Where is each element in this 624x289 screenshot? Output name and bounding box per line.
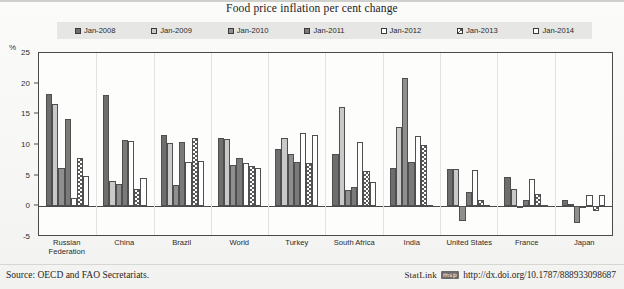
legend-swatch-icon: [75, 28, 81, 34]
bar-slot: [83, 53, 89, 235]
y-tick-label: 5: [10, 170, 30, 179]
legend-label: Jan-2014: [542, 26, 574, 35]
x-axis-label: United States: [441, 238, 499, 264]
bar[interactable]: [541, 205, 547, 207]
plot-area: [38, 52, 613, 236]
legend-item-jan-2014[interactable]: Jan-2014: [516, 26, 592, 35]
legend-item-jan-2008[interactable]: Jan-2008: [57, 26, 133, 35]
bar-groups: [39, 53, 612, 235]
y-tick-label: 0: [10, 201, 30, 210]
bar[interactable]: [83, 176, 89, 207]
bar-group: [154, 53, 211, 235]
bar[interactable]: [599, 195, 605, 206]
x-axis-label: Russian Federation: [38, 238, 96, 264]
bar-group: [96, 53, 153, 235]
bar-group: [325, 53, 382, 235]
x-axis-labels: Russian FederationChinaBrazilWorldTurkey…: [38, 238, 613, 264]
x-axis-label: France: [498, 238, 556, 264]
bar-group: [497, 53, 554, 235]
statlink[interactable]: StatLink msp http://dx.doi.org/10.1787/8…: [404, 270, 616, 280]
x-axis-label: Brazil: [153, 238, 211, 264]
y-tick-label: 15: [10, 109, 30, 118]
legend-swatch-icon: [151, 28, 157, 34]
bar-slot: [312, 53, 318, 235]
bar-group: [268, 53, 325, 235]
bar-slot: [427, 53, 433, 235]
y-tick-label: 25: [10, 48, 30, 57]
chart-title: Food price inflation per cent change: [0, 2, 624, 14]
bar[interactable]: [312, 135, 318, 206]
y-tick-label: 10: [10, 140, 30, 149]
bar-group: [39, 53, 96, 235]
bar[interactable]: [427, 205, 433, 207]
bar-group: [383, 53, 440, 235]
source-note: Source: OECD and FAO Secretariats.: [6, 270, 149, 280]
legend-label: Jan-2011: [313, 26, 344, 35]
x-axis-label: Turkey: [268, 238, 326, 264]
bar[interactable]: [370, 182, 376, 207]
legend-swatch-icon: [304, 28, 310, 34]
bar-slot: [255, 53, 261, 235]
chart-legend: Jan-2008Jan-2009Jan-2010Jan-2011Jan-2012…: [57, 22, 592, 39]
bar-group: [555, 53, 612, 235]
bar-slot: [198, 53, 204, 235]
bar-slot: [541, 53, 547, 235]
bar[interactable]: [198, 161, 204, 206]
bar[interactable]: [484, 205, 490, 207]
legend-label: Jan-2008: [84, 26, 116, 35]
legend-label: Jan-2010: [237, 26, 269, 35]
legend-swatch-icon: [381, 28, 387, 34]
bar-slot: [140, 53, 146, 235]
y-axis: 2520151050-5: [10, 52, 34, 236]
bar-slot: [484, 53, 490, 235]
bar-group: [440, 53, 497, 235]
statlink-url[interactable]: http://dx.doi.org/10.1787/888933098687: [463, 270, 616, 280]
legend-swatch-icon: [228, 28, 234, 34]
legend-label: Jan-2013: [466, 26, 498, 35]
x-axis-label: Japan: [556, 238, 614, 264]
legend-item-jan-2011[interactable]: Jan-2011: [286, 26, 362, 35]
bar-group: [211, 53, 268, 235]
x-axis-label: World: [211, 238, 269, 264]
statlink-label: StatLink: [404, 270, 437, 280]
y-tick-label: -5: [10, 232, 30, 241]
bar[interactable]: [140, 178, 146, 206]
y-tick-label: 20: [10, 78, 30, 87]
x-axis-label: India: [383, 238, 441, 264]
x-axis-label: South Africa: [326, 238, 384, 264]
legend-item-jan-2012[interactable]: Jan-2012: [363, 26, 439, 35]
footer-divider: [0, 264, 624, 265]
bar-slot: [599, 53, 605, 235]
x-axis-label: China: [96, 238, 154, 264]
legend-item-jan-2010[interactable]: Jan-2010: [210, 26, 286, 35]
bar-slot: [370, 53, 376, 235]
bar[interactable]: [255, 168, 261, 206]
legend-item-jan-2013[interactable]: Jan-2013: [439, 26, 515, 35]
plot-area-wrapper: 2520151050-5: [10, 52, 614, 236]
legend-label: Jan-2012: [390, 26, 422, 35]
statlink-icon: msp: [441, 271, 459, 279]
legend-swatch-icon: [533, 28, 539, 34]
legend-label: Jan-2009: [160, 26, 192, 35]
legend-swatch-icon: [457, 28, 463, 34]
legend-item-jan-2009[interactable]: Jan-2009: [133, 26, 209, 35]
